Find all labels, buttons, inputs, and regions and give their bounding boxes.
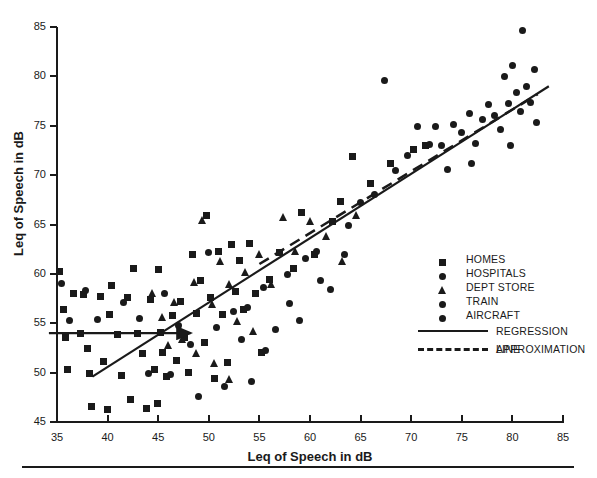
legend-label: HOSPITALS (466, 266, 526, 280)
data-point (97, 293, 104, 300)
data-point (327, 286, 334, 293)
data-point (272, 326, 279, 333)
data-point (238, 336, 245, 343)
data-point (198, 216, 206, 224)
data-point (108, 282, 115, 289)
data-point (169, 312, 176, 319)
y-tick-label: 50 (0, 367, 46, 378)
x-axis-title: Leq of Speech in dB (57, 449, 563, 464)
data-point (58, 280, 65, 287)
data-point (533, 119, 540, 126)
x-tick-label: 85 (548, 432, 578, 443)
data-point (296, 317, 303, 324)
data-point (228, 241, 235, 248)
data-point (387, 160, 394, 167)
data-point (158, 313, 166, 321)
data-point (357, 199, 364, 206)
data-point (120, 299, 127, 306)
data-point (392, 167, 399, 174)
data-point (177, 298, 184, 305)
data-point (201, 339, 208, 346)
data-point (322, 232, 330, 240)
legend-label: AIRCRAFT (466, 308, 520, 322)
data-point (438, 142, 445, 149)
data-point (190, 278, 198, 286)
data-point (290, 265, 297, 272)
data-point (225, 280, 233, 288)
data-point (143, 405, 150, 412)
y-tick-label-text: 50 (22, 367, 46, 378)
data-point (205, 249, 212, 256)
data-point (157, 329, 164, 336)
data-point (145, 370, 152, 377)
y-tick (50, 125, 57, 127)
legend-label: DEPT STORE (466, 280, 535, 294)
x-tick-label: 40 (93, 432, 123, 443)
legend-label: TRAIN (466, 294, 499, 308)
data-point (404, 152, 411, 159)
data-point (513, 89, 520, 96)
x-tick-label: 80 (497, 432, 527, 443)
data-point (244, 304, 251, 311)
data-point (262, 347, 269, 354)
data-point (62, 334, 69, 341)
data-point (175, 322, 182, 329)
data-point (82, 287, 89, 294)
data-point (306, 217, 314, 225)
data-point (233, 317, 241, 325)
legend-row: TRAIN (418, 294, 593, 308)
data-point (517, 108, 524, 115)
y-tick-label-text: 55 (22, 317, 46, 328)
legend-row: REGRESSION LINE (418, 322, 593, 340)
data-point (317, 277, 324, 284)
data-point (187, 341, 194, 348)
legend-row: HOSPITALS (418, 266, 593, 280)
data-point (216, 257, 224, 265)
data-point (64, 366, 71, 373)
data-point (215, 248, 222, 255)
data-point (337, 198, 344, 205)
legend-row: APPROXIMATION (418, 340, 593, 358)
data-point (60, 306, 67, 313)
x-tick-label: 60 (295, 432, 325, 443)
data-point (193, 310, 200, 317)
data-point (94, 316, 101, 323)
data-point (148, 289, 156, 297)
y-tick (50, 26, 57, 28)
data-point (173, 357, 180, 364)
data-point (381, 77, 388, 84)
data-point (284, 271, 291, 278)
data-point (189, 251, 196, 258)
data-point (241, 268, 249, 276)
data-point (279, 213, 287, 221)
data-point (213, 324, 220, 331)
data-point (527, 99, 534, 106)
data-point (167, 371, 174, 378)
plot-area (57, 27, 563, 422)
data-point (329, 218, 336, 225)
data-point (236, 257, 243, 264)
data-point (56, 268, 63, 275)
data-point (139, 350, 146, 357)
y-tick-label: 85 (0, 21, 46, 32)
data-point (248, 378, 255, 385)
data-point (345, 222, 352, 229)
data-point (519, 27, 526, 34)
y-tick (50, 372, 57, 374)
y-tick (50, 174, 57, 176)
y-tick-label-text: 65 (22, 219, 46, 230)
data-point (208, 300, 216, 308)
data-point (497, 126, 504, 133)
data-point (291, 247, 299, 255)
legend-marker-square-icon (439, 259, 446, 266)
data-point (468, 160, 475, 167)
chart-legend: HOMESHOSPITALSDEPT STORETRAINAIRCRAFTREG… (418, 252, 593, 358)
data-point (426, 141, 433, 148)
y-tick-label: 55 (0, 317, 46, 328)
data-point (221, 383, 228, 390)
data-point (106, 311, 113, 318)
data-point (86, 370, 93, 377)
x-tick-label: 50 (194, 432, 224, 443)
data-point (195, 393, 202, 400)
data-point (232, 288, 239, 295)
